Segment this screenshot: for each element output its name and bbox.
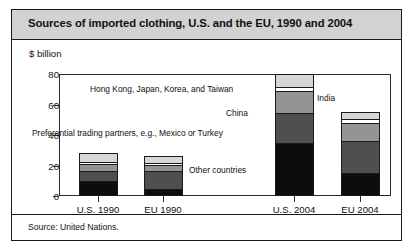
bar-segment bbox=[276, 91, 313, 114]
x-axis-tick-mark bbox=[294, 196, 295, 202]
bar-segment bbox=[80, 154, 117, 162]
bar-segment bbox=[80, 171, 117, 181]
annotation-preferential: Preferential trading partners, e.g., Mex… bbox=[32, 128, 223, 138]
bar-segment bbox=[342, 141, 379, 173]
y-axis-tick-label: 80 bbox=[37, 69, 59, 80]
bar-u-s-2004 bbox=[275, 74, 314, 196]
bar-segment bbox=[145, 189, 182, 195]
source-note: Source: United Nations. bbox=[28, 222, 119, 232]
x-axis-tick-mark bbox=[360, 196, 361, 202]
chart-title-bar: Sources of imported clothing, U.S. and t… bbox=[12, 10, 401, 40]
bar-eu-1990 bbox=[144, 156, 183, 196]
x-axis-tick-mark bbox=[98, 196, 99, 202]
bar-segment bbox=[342, 173, 379, 195]
page-title: Sources of imported clothing, U.S. and t… bbox=[28, 17, 352, 29]
annotation-india: India bbox=[317, 93, 335, 103]
annotation-hk-japan-korea-taiwan: Hong Kong, Japan, Korea, and Taiwan bbox=[90, 84, 233, 94]
annotation-china: China bbox=[226, 108, 248, 118]
y-axis-tick-mark bbox=[53, 196, 59, 197]
bar-eu-2004 bbox=[341, 112, 380, 196]
bar-segment bbox=[80, 181, 117, 195]
bar-segment bbox=[342, 123, 379, 141]
source-divider bbox=[12, 214, 401, 215]
annotation-other: Other countries bbox=[189, 165, 246, 175]
bar-segment bbox=[276, 75, 313, 87]
bar-segment bbox=[145, 171, 182, 189]
bar-segment bbox=[276, 143, 313, 195]
chart-figure: Sources of imported clothing, U.S. and t… bbox=[11, 9, 402, 241]
bar-u-s-1990 bbox=[79, 153, 118, 196]
x-axis-tick-mark bbox=[163, 196, 164, 202]
bar-segment bbox=[276, 113, 313, 143]
